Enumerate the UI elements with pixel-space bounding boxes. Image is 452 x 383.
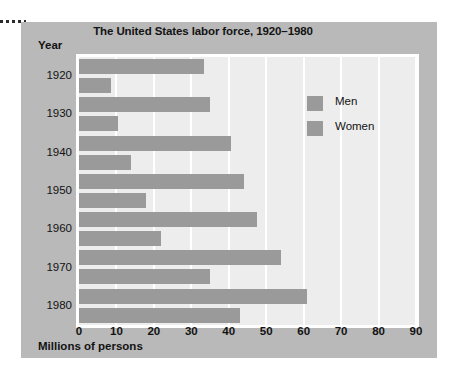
bar-women [79,78,111,93]
plot-area [76,54,419,328]
bar-women [79,308,240,323]
bar-group [79,289,416,327]
x-axis-tick-label: 70 [335,325,348,337]
legend-swatch [307,121,323,136]
bar-group [79,212,416,250]
legend-label: Women [335,120,374,132]
y-axis-title: Year [38,39,62,51]
bar-men [79,136,231,151]
bar-men [79,174,244,189]
bar-women [79,116,118,131]
x-axis-tick-label: 80 [372,325,385,337]
x-axis-tick-label: 30 [185,325,198,337]
bar-men [79,289,307,304]
bar-men [79,59,204,74]
legend-swatch [307,96,323,111]
bar-group [79,250,416,288]
y-axis-tick-label: 1940 [34,146,72,158]
bar-women [79,269,210,284]
y-axis-tick-label: 1960 [34,222,72,234]
y-axis-tick-label: 1970 [34,261,72,273]
y-axis-tick-label: 1980 [34,299,72,311]
bar-group [79,136,416,174]
x-axis-tick-label: 10 [110,325,123,337]
y-axis-tick-label: 1920 [34,69,72,81]
x-axis-title: Millions of persons [38,340,143,352]
x-axis-tick-label: 90 [410,325,423,337]
x-axis-tick-label: 20 [147,325,160,337]
bar-men [79,250,281,265]
bar-women [79,231,161,246]
bar-group [79,59,416,97]
chart-title: The United States labor force, 1920–1980 [53,25,353,37]
y-axis-tick-label: 1930 [34,107,72,119]
x-axis-tick-label: 60 [297,325,310,337]
bar-women [79,193,146,208]
bar-men [79,97,210,112]
bar-group [79,174,416,212]
x-axis-tick-label: 50 [260,325,273,337]
plot-inner [79,57,416,325]
bar-women [79,155,131,170]
y-axis-tick-label: 1950 [34,184,72,196]
bar-men [79,212,257,227]
legend-label: Men [335,95,357,107]
x-axis-tick-label: 40 [222,325,235,337]
x-axis-tick-label: 0 [76,325,82,337]
